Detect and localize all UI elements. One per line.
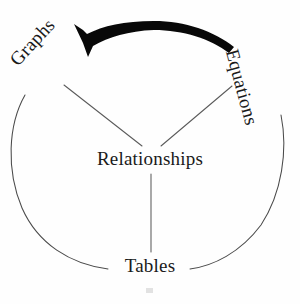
spoke-equations-relationships bbox=[161, 86, 232, 146]
node-label-relationships: Relationships bbox=[0, 149, 300, 168]
spoke-graphs-relationships bbox=[64, 85, 142, 146]
ring-arc-right bbox=[190, 115, 284, 269]
node-label-tables: Tables bbox=[0, 256, 300, 275]
scan-artifact-speck bbox=[146, 288, 153, 293]
flow-arrow-equations-to-graphs bbox=[74, 21, 234, 57]
diagram-canvas: Graphs Equations Relationships Tables bbox=[0, 0, 300, 304]
ring-arc-left bbox=[11, 95, 108, 269]
